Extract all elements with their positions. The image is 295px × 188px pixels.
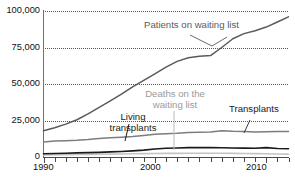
annotation-deaths-on-waiting-list: Deaths on the waiting list [133,88,217,110]
annotation-living-transplants: Living transplants [96,111,170,133]
leader-line-patients [190,35,227,46]
annotation-patients-on-waiting-list: Patients on waiting list [144,19,239,30]
annotation-living-line2: transplants [110,122,157,133]
annotation-deaths-line2: waiting list [153,99,197,110]
chart-container: 100,000 75,000 50,000 25,000 0 1990 2000… [0,0,295,188]
annotation-transplants: Transplants [229,103,279,114]
annotation-living-line1: Living [120,111,145,122]
annotation-deaths-line1: Deaths on the [145,88,205,99]
